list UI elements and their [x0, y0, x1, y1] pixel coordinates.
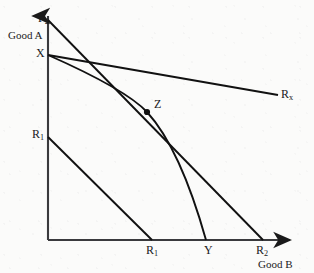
label-z: Z [154, 98, 161, 110]
label-good-b: Good B [258, 259, 293, 270]
budget-line-p2-r2 [48, 20, 263, 240]
label-r1-y-axis: R1 [32, 128, 44, 142]
label-r2: R2 [256, 244, 268, 258]
label-y: Y [204, 244, 213, 256]
label-rx: Rx [281, 88, 293, 102]
budget-line-x-rx [48, 55, 278, 95]
label-r1-x-axis: R1 [146, 244, 158, 258]
label-good-a: Good A [8, 30, 43, 41]
label-p2: P2 [38, 12, 49, 26]
point-z-marker [144, 109, 150, 115]
transformation-curve-x-z-y [48, 55, 206, 240]
budget-line-r1-r1 [48, 137, 152, 240]
label-x: X [36, 47, 45, 59]
diagram-canvas [0, 0, 314, 273]
